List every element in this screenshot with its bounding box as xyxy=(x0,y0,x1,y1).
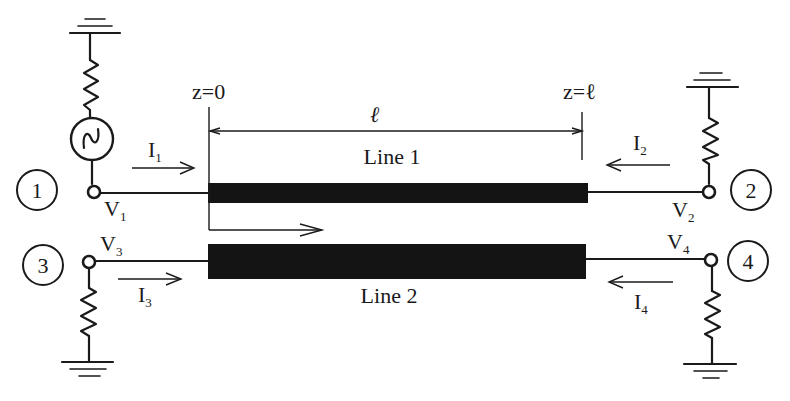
current-i3-arrow-icon xyxy=(118,273,181,285)
port-4-number: 4 xyxy=(743,249,754,274)
z0-marker: z=0 xyxy=(192,79,322,236)
ground-icon xyxy=(70,19,120,33)
port-2-number: 2 xyxy=(746,178,757,203)
current-i2-label: I2 xyxy=(633,130,647,158)
ground-icon xyxy=(684,364,736,378)
length-label: ℓ xyxy=(370,102,380,127)
ac-source-icon xyxy=(71,118,113,160)
z0-label: z=0 xyxy=(192,79,225,104)
zl-marker: z=ℓ xyxy=(563,79,596,160)
port-4-circuit: 4 V4 I4 xyxy=(586,229,768,378)
voltage-v1-label: V1 xyxy=(104,196,126,224)
resistor-icon xyxy=(705,291,720,338)
current-i1-arrow-icon xyxy=(132,162,194,174)
resistor-icon xyxy=(81,288,96,336)
port-2-node xyxy=(703,186,715,198)
line-2-conductor xyxy=(208,244,586,279)
port-1-node xyxy=(88,186,100,198)
resistor-icon xyxy=(703,118,718,164)
resistor-icon xyxy=(84,60,98,110)
line-1-label: Line 1 xyxy=(364,144,421,169)
ground-icon xyxy=(687,73,738,87)
port-2-circuit: 2 V2 I2 xyxy=(588,73,771,225)
voltage-v3-label: V3 xyxy=(100,231,122,259)
port-3-number: 3 xyxy=(38,253,49,278)
port-3-node xyxy=(83,256,95,268)
voltage-v4-label: V4 xyxy=(667,229,690,257)
coupled-lines-diagram: 1 V1 I1 2 V2 I2 xyxy=(0,0,790,401)
current-i1-label: I1 xyxy=(148,137,162,165)
ground-icon xyxy=(62,362,113,376)
line-1-conductor xyxy=(208,183,588,203)
current-i2-arrow-icon xyxy=(607,159,670,171)
port-1-circuit: 1 V1 I1 xyxy=(17,19,208,224)
port-1-number: 1 xyxy=(32,178,43,203)
port-3-circuit: 3 V3 I3 xyxy=(23,231,208,376)
line-2-label: Line 2 xyxy=(361,283,418,308)
zl-label: z=ℓ xyxy=(563,79,596,104)
current-i3-label: I3 xyxy=(138,282,152,310)
current-i4-arrow-icon xyxy=(609,276,673,288)
voltage-v2-label: V2 xyxy=(672,197,694,225)
length-dimension-arrow-icon xyxy=(210,128,582,134)
port-4-node xyxy=(705,254,717,266)
current-i4-label: I4 xyxy=(634,289,648,317)
